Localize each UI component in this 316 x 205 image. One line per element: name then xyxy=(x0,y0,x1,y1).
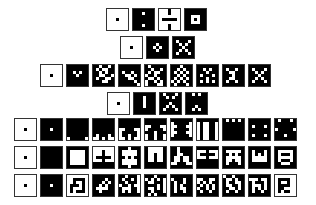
pattern-tile xyxy=(132,8,155,31)
pattern-tile xyxy=(159,92,182,115)
pattern-tile xyxy=(66,174,89,197)
pattern-tile xyxy=(185,92,208,115)
pattern-cell xyxy=(139,55,142,58)
pattern-cell xyxy=(125,27,128,30)
pattern-cell xyxy=(241,137,244,140)
pattern-tile xyxy=(144,64,167,87)
pattern-tile xyxy=(222,146,245,169)
pattern-cell xyxy=(59,165,62,168)
pattern-tile xyxy=(248,118,271,141)
pattern-cell xyxy=(137,193,140,196)
pattern-cell xyxy=(33,137,36,140)
pattern-cell xyxy=(163,83,166,86)
pattern-tile xyxy=(118,64,141,87)
pattern-tile xyxy=(144,146,167,169)
pattern-cell xyxy=(241,83,244,86)
pattern-tile xyxy=(120,36,143,59)
pattern-cell xyxy=(163,137,166,140)
pattern-tile xyxy=(144,174,167,197)
pattern-cell xyxy=(241,193,244,196)
pattern-tile xyxy=(14,174,37,197)
pattern-cell xyxy=(241,165,244,168)
tile-row-3 xyxy=(40,64,271,87)
pattern-cell xyxy=(267,193,270,196)
pattern-cell xyxy=(59,137,62,140)
pattern-cell xyxy=(111,165,114,168)
pattern-cell xyxy=(215,193,218,196)
pattern-tile xyxy=(118,146,141,169)
pattern-tile xyxy=(170,146,193,169)
pattern-cell xyxy=(215,83,218,86)
pattern-cell xyxy=(85,165,88,168)
pattern-cell xyxy=(215,165,218,168)
pattern-tile xyxy=(14,118,37,141)
pattern-tile xyxy=(118,118,141,141)
pattern-tile xyxy=(158,8,181,31)
pattern-cell xyxy=(204,111,207,114)
pattern-cell xyxy=(85,83,88,86)
pattern-cell xyxy=(215,137,218,140)
pattern-tile xyxy=(184,8,207,31)
pattern-tile xyxy=(40,174,63,197)
pattern-tile xyxy=(196,146,219,169)
pattern-cell xyxy=(137,165,140,168)
pattern-cell xyxy=(163,165,166,168)
pattern-cell xyxy=(126,111,129,114)
pattern-cell xyxy=(267,137,270,140)
pattern-cell xyxy=(165,55,168,58)
pattern-tile xyxy=(274,118,297,141)
pattern-tile xyxy=(107,92,130,115)
pattern-tile xyxy=(170,64,193,87)
pattern-tile xyxy=(222,64,245,87)
pattern-tile xyxy=(66,64,89,87)
pattern-tile xyxy=(196,118,219,141)
tile-row-1 xyxy=(106,8,207,31)
tile-row-4 xyxy=(107,92,208,115)
pattern-tile xyxy=(92,174,115,197)
pattern-tile xyxy=(144,118,167,141)
pattern-tile xyxy=(40,64,63,87)
pattern-cell xyxy=(33,193,36,196)
pattern-cell xyxy=(293,193,296,196)
pattern-cell xyxy=(85,193,88,196)
pattern-tile xyxy=(133,92,156,115)
pattern-tile xyxy=(274,146,297,169)
tile-row-7 xyxy=(14,174,297,197)
pattern-tile xyxy=(172,36,195,59)
pattern-tile xyxy=(106,8,129,31)
pattern-cell xyxy=(189,165,192,168)
pattern-tile xyxy=(248,174,271,197)
pattern-tile xyxy=(274,174,297,197)
pattern-cell xyxy=(152,111,155,114)
pattern-cell xyxy=(267,83,270,86)
pattern-cell xyxy=(137,137,140,140)
tile-row-6 xyxy=(14,146,297,169)
pattern-tile xyxy=(170,174,193,197)
pattern-tile xyxy=(66,118,89,141)
pattern-tile xyxy=(92,118,115,141)
pattern-cell xyxy=(111,137,114,140)
pattern-tile xyxy=(118,174,141,197)
pattern-tile xyxy=(248,146,271,169)
pattern-tile xyxy=(222,174,245,197)
pattern-tile xyxy=(40,146,63,169)
pattern-tile xyxy=(92,64,115,87)
pattern-cell xyxy=(267,165,270,168)
pattern-cell xyxy=(33,165,36,168)
pattern-cell xyxy=(85,137,88,140)
pattern-cell xyxy=(163,193,166,196)
tile-row-5 xyxy=(14,118,297,141)
pattern-cell xyxy=(137,83,140,86)
pattern-cell xyxy=(189,83,192,86)
pattern-tile xyxy=(222,118,245,141)
pattern-cell xyxy=(293,165,296,168)
tile-row-2 xyxy=(120,36,195,59)
pattern-cell xyxy=(111,193,114,196)
pattern-cell xyxy=(189,193,192,196)
pattern-cell xyxy=(59,83,62,86)
pattern-tile xyxy=(14,146,37,169)
pattern-tile xyxy=(92,146,115,169)
pattern-tile xyxy=(170,118,193,141)
pattern-tile xyxy=(66,146,89,169)
pattern-cell xyxy=(59,193,62,196)
